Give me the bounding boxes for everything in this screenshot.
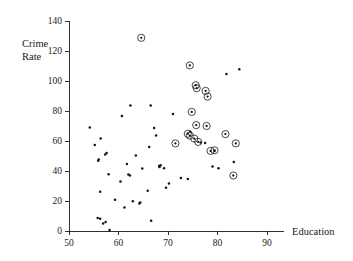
y-axis-ticks: 020406080100120140 (48, 16, 69, 236)
data-point-highlighted (140, 37, 142, 39)
x-tick-label: 60 (114, 238, 124, 248)
data-point (149, 104, 152, 107)
data-point (204, 142, 207, 145)
data-point-highlighted (205, 125, 207, 127)
data-point (102, 222, 105, 225)
data-point (108, 229, 111, 232)
data-point (168, 182, 171, 185)
y-tick-label: 20 (53, 196, 63, 206)
data-point (139, 201, 142, 204)
data-point (93, 144, 96, 147)
y-tick-label: 40 (53, 166, 63, 176)
data-point-highlighted (196, 87, 198, 89)
scatter-plot: 020406080100120140 5060708090 Crime Rate… (0, 0, 353, 261)
data-point (114, 199, 117, 202)
x-axis-title: Education (292, 226, 335, 237)
data-point-highlighted (206, 95, 208, 97)
data-point (159, 164, 162, 167)
data-point (153, 127, 156, 130)
data-point (129, 174, 132, 177)
chart-figure: 020406080100120140 5060708090 Crime Rate… (0, 0, 353, 261)
y-tick-label: 60 (53, 136, 63, 146)
data-point (121, 115, 124, 118)
data-point (141, 167, 144, 170)
data-point-highlighted (195, 124, 197, 126)
data-point (132, 200, 135, 203)
x-tick-label: 50 (64, 238, 74, 248)
data-point (99, 190, 102, 193)
data-point (135, 154, 138, 157)
y-tick-label: 140 (48, 16, 63, 26)
data-point-highlighted (193, 137, 195, 139)
data-point (165, 187, 168, 190)
series-highlighted (138, 34, 240, 179)
data-point (238, 68, 241, 71)
data-point (150, 220, 153, 223)
data-point (211, 165, 214, 168)
data-point (146, 190, 149, 193)
data-point (97, 158, 100, 161)
data-point-highlighted (232, 174, 234, 176)
x-tick-label: 90 (262, 238, 272, 248)
y-tick-label: 100 (48, 76, 63, 86)
data-point-highlighted (189, 64, 191, 66)
data-point (225, 73, 228, 76)
y-axis-title-line2: Rate (22, 51, 42, 62)
data-point (129, 104, 132, 107)
data-point-highlighted (197, 141, 199, 143)
x-tick-label: 70 (163, 238, 173, 248)
data-point (217, 167, 220, 170)
data-point (104, 221, 107, 224)
data-point (187, 178, 190, 181)
data-point (89, 126, 92, 129)
data-point-highlighted (224, 133, 226, 135)
data-point (123, 206, 126, 209)
x-axis-ticks: 5060708090 (64, 231, 272, 248)
data-point (99, 217, 102, 220)
data-point (233, 161, 236, 164)
axes-group (69, 21, 284, 231)
data-points-layer (89, 34, 241, 231)
data-point (107, 173, 110, 176)
data-point (180, 177, 183, 180)
y-tick-label: 80 (53, 106, 63, 116)
data-point (99, 137, 102, 140)
data-point (155, 134, 158, 137)
y-tick-label: 0 (57, 226, 62, 236)
y-tick-label: 120 (48, 46, 63, 56)
data-point (148, 146, 151, 149)
data-point (105, 152, 108, 155)
y-axis-title-line1: Crime (22, 38, 49, 49)
data-point (119, 180, 122, 183)
data-point-highlighted (213, 149, 215, 151)
data-point (172, 113, 175, 116)
data-point (126, 163, 129, 166)
data-point-highlighted (191, 111, 193, 113)
data-point-highlighted (174, 142, 176, 144)
data-point (96, 217, 99, 220)
data-point-highlighted (235, 142, 237, 144)
x-tick-label: 80 (213, 238, 223, 248)
data-point-highlighted (204, 90, 206, 92)
data-point (163, 167, 166, 170)
data-point-highlighted (189, 134, 191, 136)
